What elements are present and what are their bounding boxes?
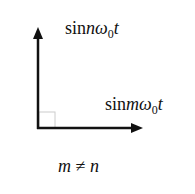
horizontal-vector-label: sinmω0t [105,94,163,118]
condition-right: n [90,156,99,176]
t-text: t [158,94,163,114]
vertical-arrowhead-icon [33,27,43,39]
right-angle-marker [39,112,55,128]
horizontal-arrowhead-icon [131,123,143,133]
condition-operator: ≠ [76,156,86,176]
vertical-vector-label: sinnω0t [65,18,119,42]
condition-left: m [58,156,71,176]
var-text: m [126,94,139,114]
var-text: n [86,18,95,38]
omega-text: ω [139,94,152,114]
omega-text: ω [95,18,108,38]
t-text: t [114,18,119,38]
condition-label: m ≠ n [58,156,99,177]
fn-text: sin [105,94,126,114]
fn-text: sin [65,18,86,38]
